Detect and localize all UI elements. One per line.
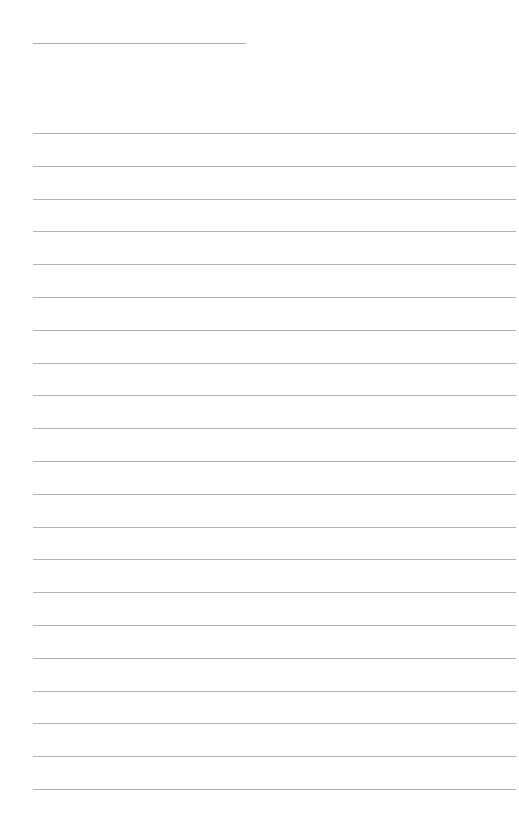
ruled-line [33, 592, 516, 593]
ruled-line [33, 264, 516, 265]
ruled-line [33, 658, 516, 659]
ruled-line [33, 527, 516, 528]
ruled-line [33, 330, 516, 331]
ruled-line [33, 559, 516, 560]
ruled-line [33, 363, 516, 364]
ruled-line [33, 428, 516, 429]
lined-page [0, 0, 519, 835]
ruled-line [33, 199, 516, 200]
ruled-line [33, 133, 516, 134]
ruled-line [33, 789, 516, 790]
ruled-line [33, 494, 516, 495]
ruled-line [33, 691, 516, 692]
title-field[interactable] [33, 24, 246, 42]
ruled-line [33, 461, 516, 462]
ruled-line [33, 297, 516, 298]
ruled-line [33, 166, 516, 167]
ruled-line [33, 756, 516, 757]
ruled-line [33, 723, 516, 724]
title-underline [33, 43, 246, 44]
ruled-line [33, 625, 516, 626]
ruled-line [33, 395, 516, 396]
ruled-line [33, 231, 516, 232]
